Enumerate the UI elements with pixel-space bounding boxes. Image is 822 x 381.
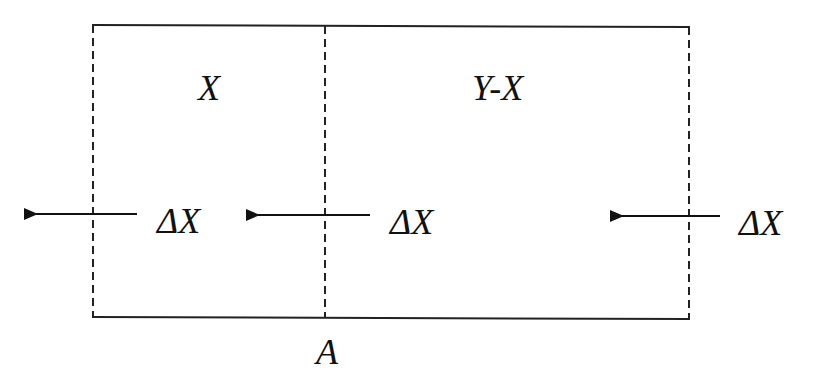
bottom-border [92, 317, 690, 319]
flow-diagram: X Y-X ΔX ΔX ΔX A [0, 0, 822, 381]
top-border [92, 25, 690, 27]
boundary-a-label: A [314, 332, 339, 372]
flow-label-middle: ΔX [388, 202, 435, 242]
flow-label-left: ΔX [155, 201, 202, 241]
flow-label-right: ΔX [737, 203, 784, 243]
region-x-label: X [196, 68, 222, 108]
region-y-minus-x-label: Y-X [472, 68, 525, 108]
